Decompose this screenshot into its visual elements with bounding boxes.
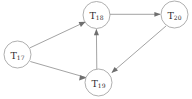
graph-diagram: T17 T18 T19 T20 — [0, 0, 192, 99]
node-t18-subscript: 18 — [96, 14, 104, 21]
node-t20-subscript: 20 — [174, 13, 182, 20]
edge-t20-t19[interactable] — [111, 26, 166, 73]
node-t17[interactable]: T17 — [4, 41, 31, 68]
graph-canvas: T17 T18 T19 T20 — [0, 0, 192, 99]
edge-t18-t20[interactable] — [110, 12, 161, 17]
edge-t17-t18-line — [30, 22, 85, 48]
node-t19-subscript: 19 — [98, 81, 106, 88]
edge-t20-t19-line — [112, 26, 166, 73]
edge-t17-t19[interactable] — [30, 62, 86, 81]
edge-t19-t18-arrowhead — [94, 29, 99, 36]
node-t19[interactable]: T19 — [85, 69, 112, 96]
node-t17-subscript: 17 — [17, 53, 25, 60]
node-t20[interactable]: T20 — [161, 1, 188, 28]
node-t18[interactable]: T18 — [83, 2, 110, 29]
edge-t19-t18[interactable] — [94, 29, 99, 69]
edge-t17-t18[interactable] — [30, 22, 86, 48]
edge-t17-t19-line — [30, 62, 86, 78]
edge-t18-t20-arrowhead — [154, 12, 160, 17]
node-layer: T17 T18 T19 T20 — [4, 1, 188, 96]
